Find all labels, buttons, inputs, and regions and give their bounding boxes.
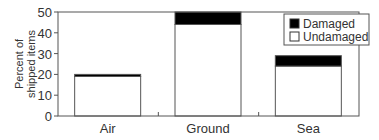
y-tick-label: 0 <box>45 109 52 124</box>
y-tick-label: 30 <box>38 47 52 62</box>
y-tick-label: 50 <box>38 5 52 20</box>
bar-segment-damaged <box>275 56 341 66</box>
bar-segment-damaged <box>175 12 241 24</box>
bar-group-ground <box>175 12 241 116</box>
y-axis-label-line-1: Percent of <box>13 38 25 89</box>
legend: DamagedUndamaged <box>284 14 369 45</box>
x-category-label: Ground <box>186 121 229 136</box>
y-axis-label-line-2: shipped items <box>25 30 37 98</box>
legend-swatch-undamaged <box>290 32 299 41</box>
y-tick-label: 40 <box>38 26 52 41</box>
stacked-bar-chart: Percent of shipped items 01020304050 Air… <box>0 0 379 140</box>
bar-segment-undamaged <box>275 66 341 116</box>
bar-segment-undamaged <box>175 24 241 116</box>
legend-label: Undamaged <box>303 30 368 44</box>
bar-segment-undamaged <box>75 76 141 116</box>
legend-label: Damaged <box>303 17 355 31</box>
bar-group-sea <box>275 56 341 116</box>
y-tick-label: 20 <box>38 67 52 82</box>
bar-group-air <box>75 74 141 116</box>
x-category-label: Sea <box>297 121 321 136</box>
legend-swatch-damaged <box>290 19 299 28</box>
chart-container: Percent of shipped items 01020304050 Air… <box>0 0 379 140</box>
x-category-label: Air <box>100 121 117 136</box>
y-tick-label: 10 <box>38 88 52 103</box>
y-axis-ticks: 01020304050 <box>38 5 58 124</box>
y-axis-label: Percent of shipped items <box>13 30 37 98</box>
bar-segment-damaged <box>75 74 141 76</box>
